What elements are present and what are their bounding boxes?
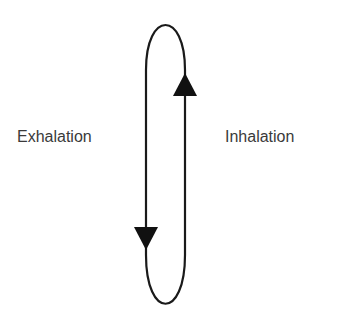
inhalation-label: Inhalation [225,129,294,145]
cycle-loop [0,0,340,324]
arrow-down-icon [134,227,158,250]
arrow-up-icon [173,73,197,96]
exhalation-label: Exhalation [17,129,92,145]
loop-path [146,25,185,304]
